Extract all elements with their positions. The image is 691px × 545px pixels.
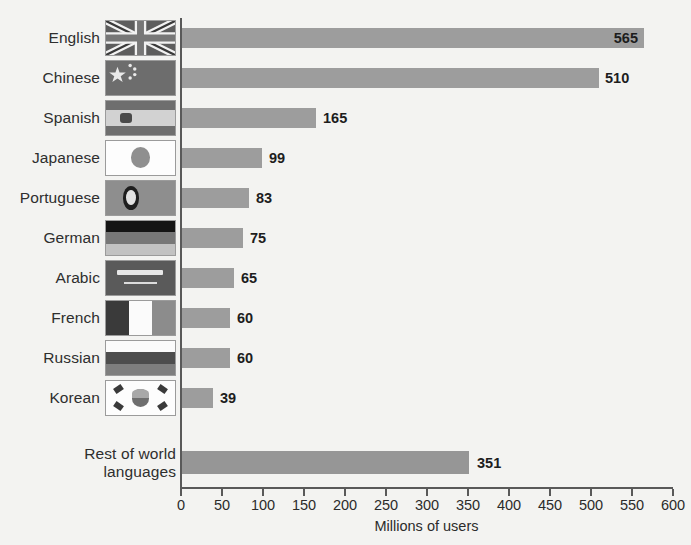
x-tick <box>549 489 551 496</box>
bar-french <box>181 308 230 328</box>
category-label-chinese: Chinese <box>0 58 100 98</box>
y-axis-line <box>180 18 182 488</box>
saudi-arabia-flag <box>105 260 176 296</box>
x-tick <box>508 489 510 496</box>
x-tick <box>426 489 428 496</box>
x-tick <box>631 489 633 496</box>
chart-row: Portuguese 83 <box>0 178 691 218</box>
language-users-bar-chart: English 565 Chinese <box>0 0 691 545</box>
portugal-flag <box>105 180 176 216</box>
japan-flag <box>105 140 176 176</box>
united-kingdom-flag <box>105 20 176 56</box>
germany-flag <box>105 220 176 256</box>
russia-flag <box>105 340 176 376</box>
x-axis-title: Millions of users <box>180 518 673 534</box>
value-label-german: 75 <box>250 228 266 248</box>
chart-row: English 565 <box>0 18 691 58</box>
value-label-chinese: 510 <box>605 68 629 88</box>
category-label-russian: Russian <box>0 338 100 378</box>
china-flag <box>105 60 176 96</box>
category-label-rest-of-world: Rest of world languages <box>0 443 176 483</box>
value-label-spanish: 165 <box>323 108 347 128</box>
x-tick <box>303 489 305 496</box>
x-tick <box>180 489 182 496</box>
x-tick-label: 600 <box>643 497 691 513</box>
category-label-line1: Rest of world <box>84 445 176 463</box>
chart-row: Russian 60 <box>0 338 691 378</box>
value-label-arabic: 65 <box>241 268 257 288</box>
bar-arabic <box>181 268 234 288</box>
value-label-russian: 60 <box>237 348 253 368</box>
x-tick <box>344 489 346 496</box>
x-tick <box>467 489 469 496</box>
value-label-english: 565 <box>181 28 638 48</box>
value-label-portuguese: 83 <box>256 188 272 208</box>
bar-german <box>181 228 243 248</box>
x-tick <box>262 489 264 496</box>
category-label-german: German <box>0 218 100 258</box>
bar-chinese <box>181 68 599 88</box>
spain-flag <box>105 100 176 136</box>
bar-portuguese <box>181 188 249 208</box>
chart-row: French 60 <box>0 298 691 338</box>
chart-row: Japanese 99 <box>0 138 691 178</box>
chart-row: German 75 <box>0 218 691 258</box>
x-tick <box>672 489 674 496</box>
chart-row: Arabic 65 <box>0 258 691 298</box>
value-label-japanese: 99 <box>269 148 285 168</box>
value-label-rest-of-world: 351 <box>477 451 501 474</box>
x-tick <box>590 489 592 496</box>
france-flag <box>105 300 176 336</box>
category-label-korean: Korean <box>0 378 100 418</box>
category-label-english: English <box>0 18 100 58</box>
south-korea-flag <box>105 380 176 416</box>
x-tick <box>221 489 223 496</box>
x-tick <box>385 489 387 496</box>
category-label-arabic: Arabic <box>0 258 100 298</box>
bar-rest-of-world <box>181 451 469 474</box>
chart-row: Rest of world languages 351 <box>0 443 691 483</box>
bar-korean <box>181 388 213 408</box>
chart-row: Chinese 510 <box>0 58 691 98</box>
category-label-spanish: Spanish <box>0 98 100 138</box>
bar-russian <box>181 348 230 368</box>
category-label-french: French <box>0 298 100 338</box>
bar-japanese <box>181 148 262 168</box>
chart-row: Korean 39 <box>0 378 691 418</box>
value-label-korean: 39 <box>220 388 236 408</box>
chart-row: Spanish 165 <box>0 98 691 138</box>
category-label-japanese: Japanese <box>0 138 100 178</box>
category-label-portuguese: Portuguese <box>0 178 100 218</box>
bar-spanish <box>181 108 316 128</box>
value-label-french: 60 <box>237 308 253 328</box>
category-label-line2: languages <box>104 463 176 481</box>
